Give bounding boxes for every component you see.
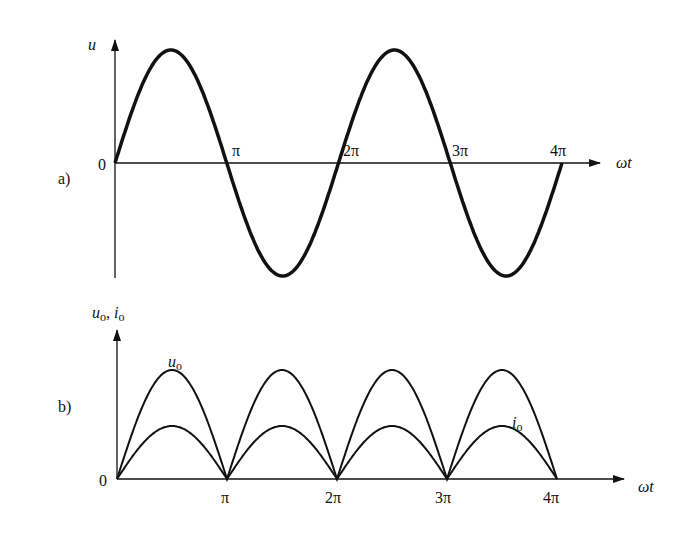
- origin-label: 0: [99, 472, 107, 489]
- tick-3pi: 3π: [452, 142, 468, 159]
- diagram-canvas: u 0 a) π 2π 3π 4π ωt uo, io uo io 0 b) π…: [0, 0, 687, 543]
- tick-4pi: 4π: [550, 142, 566, 159]
- uo-curve: [117, 370, 557, 479]
- origin-label: 0: [98, 156, 106, 173]
- tick-2pi: 2π: [325, 489, 341, 506]
- y-axis-label-u: u: [88, 36, 96, 53]
- panel-b: uo, io uo io 0 b) π 2π 3π 4π ωt: [58, 304, 654, 506]
- panel-a: u 0 a) π 2π 3π 4π ωt: [58, 36, 632, 278]
- x-axis-label-wt: ωt: [638, 478, 654, 495]
- io-curve-label: io: [512, 414, 522, 434]
- tick-4pi: 4π: [543, 489, 559, 506]
- panel-b-label: b): [58, 398, 71, 416]
- y-axis-label-uo-io: uo, io: [92, 304, 124, 324]
- figure: u 0 a) π 2π 3π 4π ωt uo, io uo io 0 b) π…: [0, 0, 687, 543]
- io-curve: [117, 426, 557, 479]
- tick-pi: π: [221, 489, 229, 506]
- tick-pi: π: [232, 142, 240, 159]
- x-axis-label-wt: ωt: [616, 154, 632, 171]
- tick-3pi: 3π: [435, 489, 451, 506]
- panel-a-label: a): [58, 170, 70, 188]
- tick-2pi: 2π: [343, 142, 359, 159]
